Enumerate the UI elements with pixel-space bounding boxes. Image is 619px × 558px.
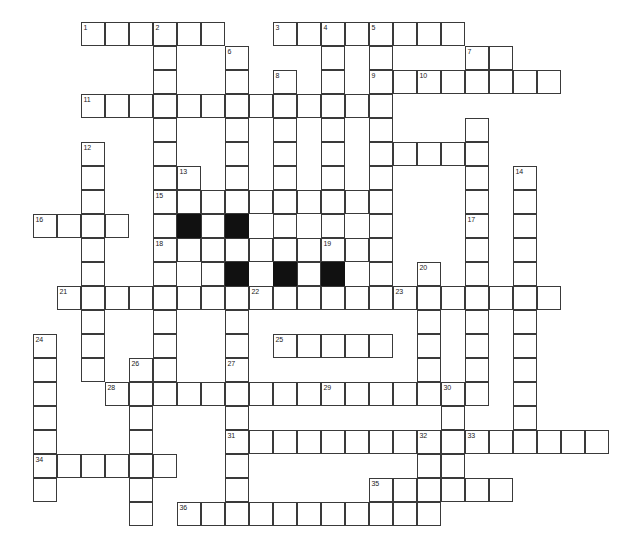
grid-cell[interactable] [417,454,441,478]
grid-cell[interactable] [225,94,249,118]
grid-cell[interactable] [393,22,417,46]
grid-cell[interactable] [465,190,489,214]
grid-cell[interactable] [273,94,297,118]
grid-cell[interactable] [153,94,177,118]
grid-cell[interactable] [177,190,201,214]
grid-cell[interactable] [441,406,465,430]
numbered-cell-30[interactable]: 30 [441,382,465,406]
grid-cell[interactable] [153,334,177,358]
numbered-cell-2[interactable]: 2 [153,22,177,46]
grid-cell[interactable] [225,406,249,430]
grid-cell[interactable] [513,406,537,430]
grid-cell[interactable] [153,286,177,310]
grid-cell[interactable] [513,214,537,238]
grid-cell[interactable] [321,214,345,238]
grid-cell[interactable] [153,166,177,190]
grid-cell[interactable] [33,430,57,454]
grid-cell[interactable] [345,94,369,118]
grid-cell[interactable] [249,382,273,406]
grid-cell[interactable] [105,22,129,46]
grid-cell[interactable] [57,214,81,238]
grid-cell[interactable] [297,286,321,310]
grid-cell[interactable] [225,142,249,166]
numbered-cell-18[interactable]: 18 [153,238,177,262]
grid-cell[interactable] [369,118,393,142]
grid-cell[interactable] [153,214,177,238]
grid-cell[interactable] [369,262,393,286]
grid-cell[interactable] [345,430,369,454]
numbered-cell-34[interactable]: 34 [33,454,57,478]
grid-cell[interactable] [129,22,153,46]
grid-cell[interactable] [489,286,513,310]
grid-cell[interactable] [489,478,513,502]
grid-cell[interactable] [201,238,225,262]
numbered-cell-17[interactable]: 17 [465,214,489,238]
grid-cell[interactable] [417,142,441,166]
numbered-cell-27[interactable]: 27 [225,358,249,382]
grid-cell[interactable] [105,94,129,118]
grid-cell[interactable] [369,502,393,526]
grid-cell[interactable] [513,310,537,334]
grid-cell[interactable] [225,310,249,334]
grid-cell[interactable] [273,142,297,166]
grid-cell[interactable] [489,70,513,94]
grid-cell[interactable] [33,478,57,502]
grid-cell[interactable] [417,286,441,310]
grid-cell[interactable] [369,238,393,262]
grid-cell[interactable] [153,46,177,70]
numbered-cell-26[interactable]: 26 [129,358,153,382]
grid-cell[interactable] [153,454,177,478]
grid-cell[interactable] [177,22,201,46]
grid-cell[interactable] [321,94,345,118]
grid-cell[interactable] [81,262,105,286]
grid-cell[interactable] [273,286,297,310]
grid-cell[interactable] [297,502,321,526]
grid-cell[interactable] [393,430,417,454]
grid-cell[interactable] [417,22,441,46]
numbered-cell-5[interactable]: 5 [369,22,393,46]
grid-cell[interactable] [513,262,537,286]
numbered-cell-14[interactable]: 14 [513,166,537,190]
numbered-cell-32[interactable]: 32 [417,430,441,454]
numbered-cell-36[interactable]: 36 [177,502,201,526]
grid-cell[interactable] [417,382,441,406]
grid-cell[interactable] [369,46,393,70]
grid-cell[interactable] [201,502,225,526]
grid-cell[interactable] [249,238,273,262]
grid-cell[interactable] [297,262,321,286]
grid-cell[interactable] [129,94,153,118]
grid-cell[interactable] [585,430,609,454]
numbered-cell-22[interactable]: 22 [249,286,273,310]
grid-cell[interactable] [321,430,345,454]
grid-cell[interactable] [465,334,489,358]
grid-cell[interactable] [513,238,537,262]
numbered-cell-3[interactable]: 3 [273,22,297,46]
grid-cell[interactable] [225,502,249,526]
grid-cell[interactable] [273,238,297,262]
numbered-cell-35[interactable]: 35 [369,478,393,502]
grid-cell[interactable] [369,286,393,310]
grid-cell[interactable] [129,478,153,502]
grid-cell[interactable] [441,454,465,478]
grid-cell[interactable] [393,382,417,406]
numbered-cell-6[interactable]: 6 [225,46,249,70]
grid-cell[interactable] [225,382,249,406]
grid-cell[interactable] [225,238,249,262]
grid-cell[interactable] [321,334,345,358]
grid-cell[interactable] [81,310,105,334]
grid-cell[interactable] [369,142,393,166]
grid-cell[interactable] [297,238,321,262]
grid-cell[interactable] [441,286,465,310]
grid-cell[interactable] [105,454,129,478]
grid-cell[interactable] [225,118,249,142]
grid-cell[interactable] [225,478,249,502]
grid-cell[interactable] [105,286,129,310]
grid-cell[interactable] [345,238,369,262]
grid-cell[interactable] [369,382,393,406]
grid-cell[interactable] [537,430,561,454]
grid-cell[interactable] [225,334,249,358]
grid-cell[interactable] [321,286,345,310]
numbered-cell-16[interactable]: 16 [33,214,57,238]
grid-cell[interactable] [513,358,537,382]
numbered-cell-15[interactable]: 15 [153,190,177,214]
